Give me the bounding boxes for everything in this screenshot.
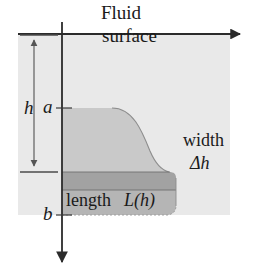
- length-word-label: length: [66, 191, 111, 210]
- width-word-label: width: [183, 131, 224, 150]
- depth-variable-label: h: [24, 98, 34, 118]
- length-symbol-label: L(h): [124, 191, 155, 210]
- strip-region-delta-h: [62, 172, 176, 190]
- fluid-label: Fluid: [101, 3, 141, 23]
- width-symbol-label: Δh: [190, 154, 210, 173]
- lower-limit-label: b: [43, 204, 53, 224]
- fluid-pressure-diagram: Fluid surface h a b width Δh length L(h): [0, 0, 255, 273]
- surface-label: surface: [102, 26, 157, 46]
- upper-limit-label: a: [43, 97, 53, 117]
